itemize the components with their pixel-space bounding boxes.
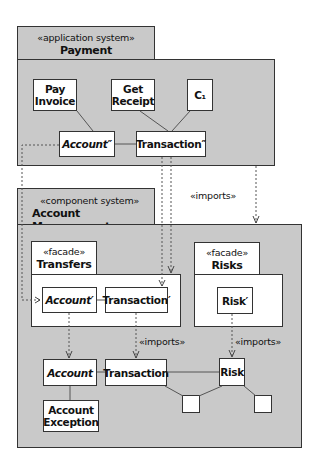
class-account-exception[interactable]: Account Exception bbox=[43, 400, 99, 432]
class-c1[interactable]: C₁ bbox=[187, 79, 213, 111]
class-label: Get Receipt bbox=[112, 83, 155, 107]
imports-label-top: «imports» bbox=[190, 190, 236, 201]
class-label: Account′ bbox=[46, 294, 94, 306]
transfers-facade-tab: «facade» Transfers bbox=[31, 241, 97, 275]
class-get-receipt[interactable]: Get Receipt bbox=[111, 79, 155, 111]
class-label: Account bbox=[47, 367, 92, 379]
class-label: Risk bbox=[220, 366, 244, 378]
transfers-name: Transfers bbox=[32, 258, 96, 271]
arrowhead bbox=[253, 216, 259, 223]
account-management-stereotype: «component system» bbox=[32, 195, 154, 207]
class-label: Transaction bbox=[103, 367, 168, 379]
class-label: Account Exception bbox=[43, 404, 98, 428]
imports-label-transaction: «imports» bbox=[139, 336, 185, 347]
class-account-prime[interactable]: Account′ bbox=[42, 287, 97, 313]
payment-package-name: Payment bbox=[18, 44, 154, 57]
class-transaction[interactable]: Transaction bbox=[105, 359, 167, 386]
payment-stereotype: «application system» bbox=[18, 32, 154, 44]
class-account-double-prime[interactable]: Account″ bbox=[59, 131, 115, 157]
account-management-package-tab: «component system» Account Management bbox=[17, 188, 155, 225]
class-anonymous-1[interactable] bbox=[182, 395, 200, 413]
class-anonymous-2[interactable] bbox=[254, 395, 272, 413]
risks-name: Risks bbox=[195, 259, 259, 272]
class-risk[interactable]: Risk bbox=[219, 358, 245, 386]
imports-label-risk: «imports» bbox=[235, 336, 281, 347]
class-label: Pay Invoice bbox=[34, 83, 76, 107]
class-label: Risk′ bbox=[222, 295, 248, 307]
class-label: Account″ bbox=[62, 138, 112, 150]
payment-package-tab: «application system» Payment bbox=[17, 26, 155, 60]
risks-facade-tab: «facade» Risks bbox=[194, 242, 260, 275]
class-account[interactable]: Account bbox=[43, 359, 97, 386]
class-pay-invoice[interactable]: Pay Invoice bbox=[33, 79, 77, 111]
class-transaction-prime[interactable]: Transaction′ bbox=[105, 287, 168, 313]
class-transaction-double-prime[interactable]: Transaction″ bbox=[136, 131, 206, 157]
class-risk-prime[interactable]: Risk′ bbox=[217, 287, 253, 314]
transfers-stereotype: «facade» bbox=[32, 246, 96, 258]
class-label: C₁ bbox=[194, 89, 206, 101]
risks-stereotype: «facade» bbox=[195, 247, 259, 259]
class-label: Transaction′ bbox=[103, 294, 171, 306]
class-label: Transaction″ bbox=[136, 138, 206, 150]
